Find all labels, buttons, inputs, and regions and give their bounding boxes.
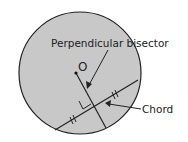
diagram-canvas: O Perpendicular bisector Chord — [0, 0, 188, 142]
chord-label: Chord — [142, 103, 173, 115]
center-label: O — [78, 60, 87, 74]
perpendicular-bisector-label: Perpendicular bisector — [51, 37, 169, 49]
